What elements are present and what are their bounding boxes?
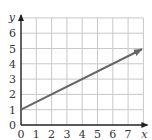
y-tick-label: 3 bbox=[9, 73, 16, 86]
x-tick-label: 0 bbox=[18, 128, 25, 140]
y-tick-label: 6 bbox=[9, 27, 16, 40]
y-tick-label: 2 bbox=[9, 88, 16, 101]
x-tick-label: 2 bbox=[48, 128, 55, 140]
y-tick-label: 1 bbox=[9, 104, 16, 117]
y-tick-label: 5 bbox=[9, 43, 16, 56]
line-chart: 012345670123456xy bbox=[0, 0, 152, 140]
x-tick-label: 4 bbox=[79, 128, 86, 140]
x-tick-label: 5 bbox=[94, 128, 101, 140]
x-axis-label: x bbox=[141, 128, 148, 140]
x-tick-label: 6 bbox=[109, 128, 116, 140]
x-tick-label: 7 bbox=[125, 128, 132, 140]
x-tick-label: 1 bbox=[33, 128, 40, 140]
y-tick-label: 4 bbox=[9, 58, 16, 71]
y-axis-label: y bbox=[8, 11, 16, 24]
x-tick-label: 3 bbox=[63, 128, 70, 140]
y-tick-label: 0 bbox=[9, 119, 16, 132]
